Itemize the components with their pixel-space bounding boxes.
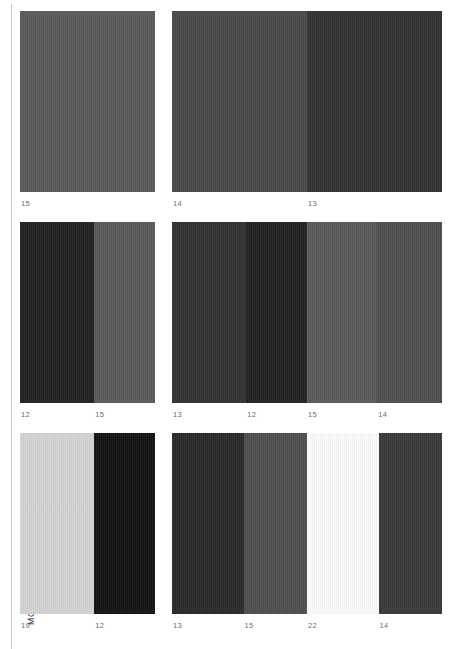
swatch-cell: 1215 — [20, 222, 155, 427]
swatch-band — [20, 222, 94, 403]
swatch-band — [379, 433, 442, 614]
swatch-caption-row: 14 — [172, 192, 307, 216]
swatch-caption-row: 1912 — [20, 614, 155, 638]
swatch-plate — [307, 222, 442, 403]
swatch-cell: 1912 — [20, 433, 155, 638]
swatch-cell: 1514 — [307, 222, 442, 427]
swatch-cell: 1312 — [172, 222, 307, 427]
swatch-band — [172, 222, 246, 403]
swatch-number-label: 15 — [245, 621, 254, 630]
swatch-band — [307, 222, 377, 403]
swatch-caption-row: 13 — [307, 192, 442, 216]
swatch-cell: 15 — [20, 11, 155, 216]
swatch-band — [307, 433, 379, 614]
swatch-plate — [307, 433, 442, 614]
swatch-plate — [172, 11, 307, 192]
swatch-number-label: 12 — [247, 410, 256, 419]
swatch-number-label: 13 — [173, 621, 182, 630]
swatch-cell: 2214 — [307, 433, 442, 638]
swatch-number-label: 19 — [21, 621, 30, 630]
swatch-number-label: 13 — [308, 199, 317, 208]
swatch-band — [94, 433, 155, 614]
swatch-caption-row: 1514 — [307, 403, 442, 427]
swatch-plate — [172, 433, 307, 614]
swatch-page: MONOCHROMATIC 15141312151312151419121315… — [0, 0, 469, 649]
swatch-caption-row: 1312 — [172, 403, 307, 427]
swatch-plate — [20, 11, 155, 192]
swatch-plate — [20, 222, 155, 403]
swatch-band — [307, 11, 442, 192]
swatch-band — [20, 11, 155, 192]
swatch-plate — [20, 433, 155, 614]
swatch-band — [244, 433, 307, 614]
swatch-number-label: 15 — [95, 410, 104, 419]
swatch-band — [377, 222, 442, 403]
swatch-number-label: 15 — [21, 199, 30, 208]
swatch-number-label: 14 — [380, 621, 389, 630]
swatch-number-label: 13 — [173, 410, 182, 419]
swatch-plate — [307, 11, 442, 192]
swatch-plate — [172, 222, 307, 403]
swatch-caption-row: 15 — [20, 192, 155, 216]
swatch-band — [246, 222, 307, 403]
swatch-caption-row: 2214 — [307, 614, 442, 638]
swatch-number-label: 22 — [308, 621, 317, 630]
swatch-number-label: 12 — [95, 621, 104, 630]
swatch-cell: 13 — [307, 11, 442, 216]
swatch-grid: 151413121513121514191213152214 — [0, 0, 469, 649]
swatch-band — [20, 433, 94, 614]
swatch-number-label: 15 — [308, 410, 317, 419]
swatch-band — [94, 222, 155, 403]
swatch-number-label: 12 — [21, 410, 30, 419]
swatch-number-label: 14 — [173, 199, 182, 208]
swatch-number-label: 14 — [378, 410, 387, 419]
swatch-band — [172, 433, 244, 614]
swatch-cell: 1315 — [172, 433, 307, 638]
swatch-caption-row: 1215 — [20, 403, 155, 427]
swatch-cell: 14 — [172, 11, 307, 216]
swatch-band — [172, 11, 307, 192]
swatch-caption-row: 1315 — [172, 614, 307, 638]
